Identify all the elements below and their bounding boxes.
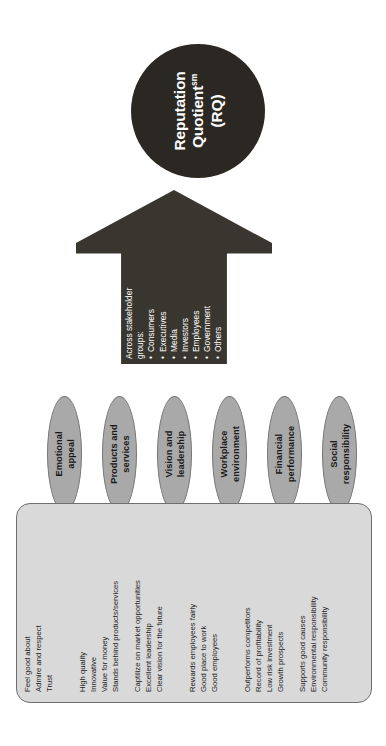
dimension-oval-label: Financial performance <box>272 398 297 510</box>
dimension-oval-label: Workplace environment <box>217 398 242 510</box>
dimension-oval-products-and-services: Products and services <box>102 396 137 512</box>
rq-servicemark: sm <box>189 74 199 86</box>
stakeholder-item: Consumers <box>146 255 157 359</box>
attribute-item: Outperforms competitors <box>242 506 253 692</box>
reputation-quotient-circle: Reputation Quotientsm (RQ) <box>131 44 265 178</box>
oval-label-line-2: performance <box>286 426 296 482</box>
attribute-item: Innovative <box>88 506 99 692</box>
oval-label-line-1: Financial <box>273 434 283 474</box>
oval-label-line-2: environment <box>231 426 241 482</box>
dimension-oval-label: Products and services <box>107 398 132 510</box>
rq-line-3: (RQ) <box>207 95 224 128</box>
stakeholder-item: Employees <box>191 255 202 359</box>
attribute-item: Clear vision for the future <box>154 506 165 692</box>
diagram-canvas: Reputation Quotientsm (RQ) Across stakeh… <box>0 0 386 746</box>
stakeholder-item: Media <box>168 255 179 359</box>
dimension-oval-emotional-appeal: Emotional appeal <box>47 396 82 512</box>
dimension-oval-label: Emotional appeal <box>52 398 77 510</box>
stakeholder-arrow: Across stakeholder groups: Consumers Exe… <box>76 190 272 364</box>
stakeholder-item: Executives <box>157 255 168 359</box>
attribute-item: Low risk investment <box>264 506 275 692</box>
attribute-item: High quality <box>77 506 88 692</box>
oval-label-line-2: leadership <box>176 431 186 478</box>
attribute-item: Supports good causes <box>297 506 308 692</box>
oval-label-line-2: services <box>121 435 131 472</box>
oval-label-line-1: Vision and <box>163 431 173 478</box>
stakeholder-item: Government <box>202 255 213 359</box>
attribute-item: Good place to work <box>198 506 209 692</box>
attribute-item: Growth prospects <box>275 506 286 692</box>
dimension-oval-workplace-environment: Workplace environment <box>212 396 247 512</box>
stakeholder-heading-line-2: groups: <box>135 255 146 359</box>
dimension-oval-vision-and-leadership: Vision and leadership <box>157 396 192 512</box>
stakeholder-item: Investors <box>180 255 191 359</box>
attributes-panel: Feel good about Admire and respect Trust… <box>16 503 372 703</box>
dimension-oval-label: Vision and leadership <box>162 398 187 510</box>
dimension-oval-label: Social responsibility <box>327 398 352 510</box>
attribute-item: Record of profitability <box>253 506 264 692</box>
dimension-oval-social-responsibility: Social responsibility <box>322 396 357 512</box>
reputation-quotient-label: Reputation Quotientsm (RQ) <box>171 46 226 176</box>
stakeholder-text-block: Across stakeholder groups: Consumers Exe… <box>121 254 227 360</box>
oval-label-line-1: Emotional <box>53 432 63 477</box>
stakeholder-heading-line-1: Across stakeholder <box>124 255 135 359</box>
oval-label-line-2: appeal <box>66 439 76 468</box>
attribute-item: Value for money <box>99 506 110 692</box>
attribute-item: Trust <box>44 506 55 692</box>
stakeholder-list: Across stakeholder groups: Consumers Exe… <box>124 255 225 359</box>
attribute-item: Captilize on market opportunities <box>132 506 143 692</box>
rq-line-1: Reputation <box>171 72 188 151</box>
attribute-item: Feel good about <box>22 506 33 692</box>
attribute-item: Community responsibility <box>319 506 330 692</box>
attribute-item: Admire and respect <box>33 506 44 692</box>
oval-label-line-2: responsibility <box>341 424 351 484</box>
oval-label-line-1: Social <box>328 440 338 467</box>
dimension-oval-financial-performance: Financial performance <box>267 396 302 512</box>
stakeholder-item: Others <box>213 255 224 359</box>
rq-line-2: Quotient <box>189 86 206 148</box>
oval-label-line-1: Workplace <box>218 431 228 478</box>
attribute-item: Environmental responsibility <box>308 506 319 692</box>
stakeholder-bullet-list: Consumers Executives Media Investors Emp… <box>146 255 224 359</box>
attribute-item: Stands behind products/services <box>110 506 121 692</box>
attribute-item: Good employees <box>209 506 220 692</box>
attribute-item: Rewards employees fairly <box>187 506 198 692</box>
oval-label-line-1: Products and <box>108 424 118 483</box>
attribute-item: Excellent leadership <box>143 506 154 692</box>
